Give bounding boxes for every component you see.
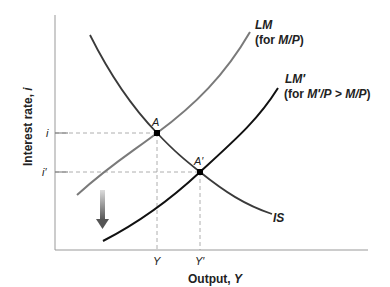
shift-down-arrow-icon <box>96 190 109 229</box>
is-label: IS <box>273 211 284 225</box>
point-a-marker <box>154 130 160 136</box>
lm-prime-sublabel: (for M′/P > M/P) <box>284 87 371 101</box>
lm-prime-label: LM′ <box>285 72 306 86</box>
x-tick-y-prime: Y′ <box>195 255 205 267</box>
lm-curve <box>77 32 250 195</box>
point-a-prime-marker <box>197 169 203 175</box>
x-tick-y: Y <box>153 255 161 267</box>
lm-label: LM <box>255 18 273 32</box>
x-axis-title: Output, Y <box>188 272 243 286</box>
y-tick-i-prime: i′ <box>42 166 47 178</box>
lm-sublabel: (for M/P) <box>255 33 304 47</box>
y-tick-i: i <box>46 127 49 139</box>
y-axis-title: Interest rate, i <box>21 87 35 166</box>
point-a-prime-label: A′ <box>193 155 204 167</box>
is-curve <box>90 35 272 214</box>
is-lm-diagram: A A′ LM (for M/P) LM′ (for M′/P > M/P) I… <box>0 0 390 287</box>
point-a-label: A <box>151 116 159 128</box>
